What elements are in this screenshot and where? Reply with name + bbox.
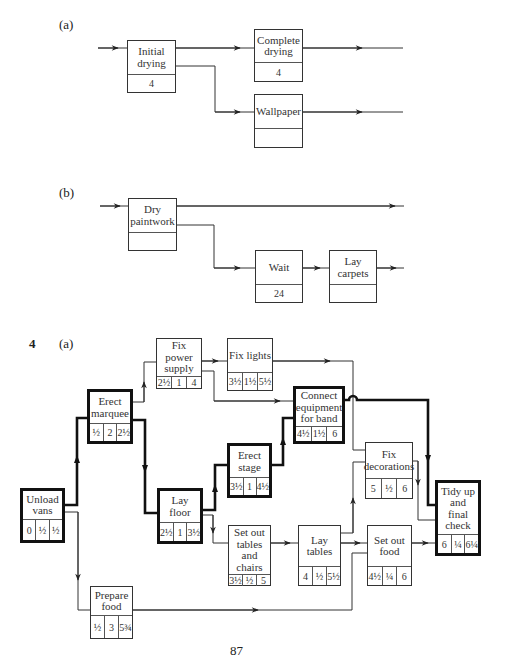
earliest-start: 6 [438, 535, 451, 553]
node-initial-drying: Initial drying 4 [127, 40, 176, 93]
node-lay-tables: Lay tables 4 ½ 5½ [298, 525, 341, 586]
node-name: Unload vans [23, 491, 62, 519]
earliest-start: 3½ [229, 575, 242, 586]
node-duration: 24 [256, 284, 302, 302]
node-prepare-food: Prepare food ½ 3 5¾ [90, 586, 133, 639]
node-duration [255, 128, 302, 147]
earliest-start: 2½ [157, 377, 171, 389]
earliest-finish: 5½ [257, 373, 272, 390]
node-erect-stage: Erect stage 3½ 1 4½ [227, 443, 272, 498]
node-unload-vans: Unload vans 0 ½ ½ [20, 488, 65, 543]
node-wallpaper: Wallpaper [254, 94, 303, 148]
node-name: Lay tables [299, 526, 340, 566]
earliest-finish: 6¼ [464, 535, 478, 553]
duration: ½ [242, 575, 256, 586]
question4-part-label: (a) [59, 336, 73, 352]
earliest-finish: 2½ [116, 424, 130, 441]
node-duration [330, 284, 376, 302]
earliest-finish: 5½ [326, 567, 340, 585]
node-name: Lay floor [160, 491, 200, 522]
earliest-start: 3½ [228, 373, 242, 390]
node-dry-paintwork: Dry paintwork [128, 198, 177, 251]
duration: ½ [35, 520, 48, 540]
node-name: Lay carpets [330, 251, 376, 284]
duration: 3 [104, 616, 118, 638]
node-name: Complete drying [255, 30, 302, 62]
duration: ½ [381, 479, 397, 498]
node-complete-drying: Complete drying 4 [254, 29, 303, 82]
node-name: Dry paintwork [129, 199, 176, 232]
earliest-finish: 5 [256, 575, 270, 586]
node-name: Set out tables and chairs [229, 526, 270, 574]
page-number: 87 [230, 643, 243, 659]
node-name: Set out food [368, 526, 411, 566]
node-name: Initial drying [128, 41, 175, 74]
earliest-finish: 4 [186, 377, 201, 389]
node-name: Erect stage [230, 446, 269, 477]
node-name: Wallpaper [255, 95, 302, 128]
node-tidy-up: Tidy up and final check 6 ¼ 6¼ [435, 480, 481, 556]
node-duration [129, 232, 176, 250]
earliest-start: 5 [366, 479, 381, 498]
earliest-finish: 6 [396, 567, 411, 585]
duration: 2 [103, 424, 117, 441]
node-name: Fix lights [228, 339, 272, 372]
node-lay-floor: Lay floor 2½ 1 3½ [157, 488, 203, 544]
earliest-start: ½ [91, 616, 104, 638]
node-lay-carpets: Lay carpets [329, 250, 377, 303]
node-wait: Wait 24 [255, 250, 303, 303]
node-erect-marquee: Erect marquee ½ 2 2½ [87, 389, 133, 444]
node-set-out-tables-chairs: Set out tables and chairs 3½ ½ 5 [228, 525, 271, 586]
node-duration: 4 [128, 74, 175, 92]
duration: 1 [173, 523, 187, 541]
node-name: Fix decorations [366, 443, 412, 478]
node-name: Erect marquee [90, 392, 130, 423]
duration: ¼ [382, 567, 397, 585]
earliest-start: 2½ [160, 523, 173, 541]
earliest-start: 4½ [296, 427, 311, 442]
duration: ½ [312, 567, 326, 585]
part-b-label: (b) [59, 185, 74, 201]
duration: ¼ [451, 535, 465, 553]
node-fix-lights: Fix lights 3½ 1½ 5½ [227, 338, 273, 391]
earliest-finish: 6 [396, 479, 412, 498]
duration: 1 [171, 377, 186, 389]
question-number: 4 [29, 336, 36, 352]
node-set-out-food: Set out food 4½ ¼ 6 [367, 525, 412, 586]
node-name: Prepare food [91, 587, 132, 615]
duration: 1½ [242, 373, 257, 390]
node-name: Fix power supply [157, 339, 201, 376]
earliest-start: 3½ [230, 478, 243, 495]
node-duration: 4 [255, 62, 302, 81]
part-a-label: (a) [59, 17, 73, 33]
earliest-finish: 4½ [256, 478, 270, 495]
earliest-finish: 5¾ [118, 616, 132, 638]
earliest-finish: 3½ [186, 523, 200, 541]
earliest-start: 4½ [368, 567, 382, 585]
node-name: Connect equipment for band [296, 389, 342, 426]
node-fix-decorations: Fix decorations 5 ½ 6 [365, 442, 413, 499]
earliest-start: 0 [23, 520, 35, 540]
node-connect-equipment: Connect equipment for band 4½ 1½ 6 [293, 386, 345, 444]
earliest-start: ½ [90, 424, 103, 441]
node-fix-power-supply: Fix power supply 2½ 1 4 [156, 338, 202, 389]
earliest-finish: ½ [49, 520, 62, 540]
duration: 1 [243, 478, 256, 495]
earliest-finish: 6 [326, 427, 342, 442]
node-name: Tidy up and final check [438, 483, 478, 534]
earliest-start: 4 [299, 567, 312, 585]
duration: 1½ [311, 427, 327, 442]
node-name: Wait [256, 251, 302, 284]
